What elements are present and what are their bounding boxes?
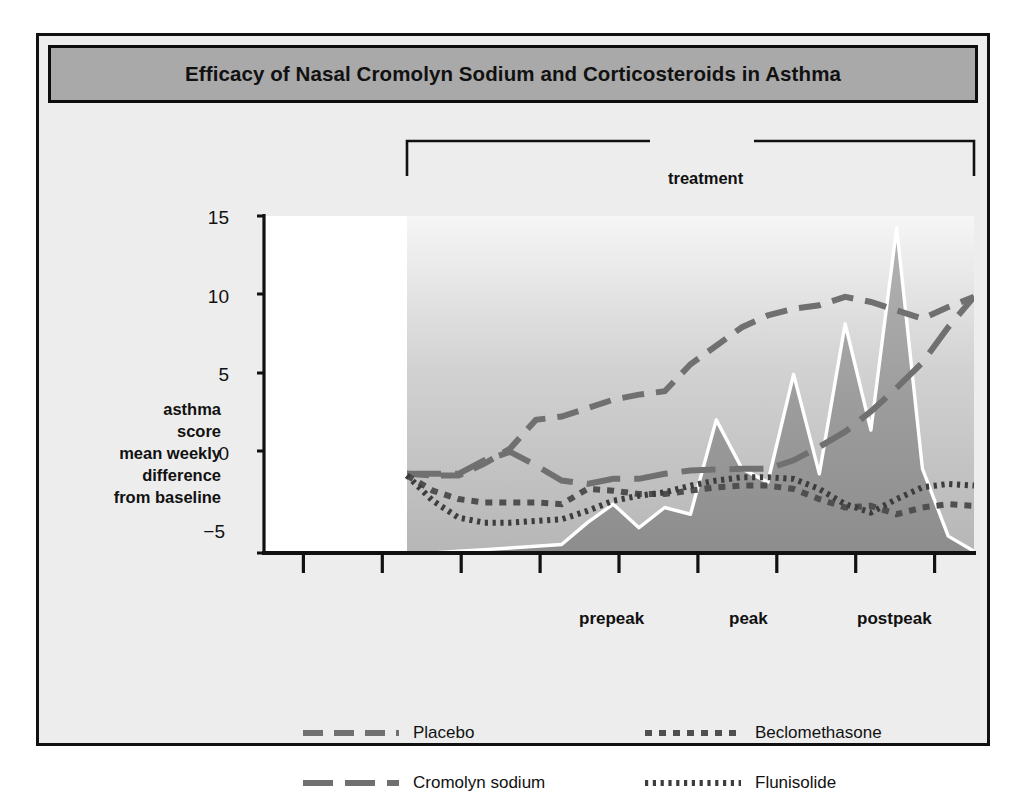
- legend-item-cromolyn-sodium[interactable]: Cromolyn sodium: [301, 773, 545, 793]
- phase-label-peak: peak: [729, 609, 768, 629]
- legend-label-placebo: Placebo: [413, 723, 474, 743]
- treatment-bracket-label: treatment: [659, 169, 752, 188]
- y-tick-label-10: 10: [189, 286, 229, 308]
- chart-legend: Placebo Cromolyn sodium Beclomethasone: [39, 715, 987, 793]
- phase-label-prepeak: prepeak: [579, 609, 644, 629]
- y-tick-label-15: 15: [189, 207, 229, 229]
- y-axis-title-line-1: asthma: [61, 398, 221, 420]
- page-title: Efficacy of Nasal Cromolyn Sodium and Co…: [185, 62, 841, 86]
- figure-root: Efficacy of Nasal Cromolyn Sodium and Co…: [0, 0, 1032, 793]
- x-axis: [262, 553, 976, 573]
- chart-title-bar: Efficacy of Nasal Cromolyn Sodium and Co…: [48, 45, 978, 103]
- plot-area: asthma score mean weekly difference from…: [39, 103, 987, 746]
- y-tick-label-0: 0: [189, 443, 229, 465]
- y-tick-label-5: 5: [189, 364, 229, 386]
- legend-item-placebo[interactable]: Placebo: [301, 723, 474, 743]
- y-axis: [257, 214, 264, 555]
- legend-item-flunisolide[interactable]: Flunisolide: [643, 773, 836, 793]
- phase-label-postpeak: postpeak: [857, 609, 932, 629]
- legend-swatch-placebo: [301, 726, 401, 740]
- legend-item-beclomethasone[interactable]: Beclomethasone: [643, 723, 882, 743]
- legend-label-flunisolide: Flunisolide: [755, 773, 836, 793]
- legend-label-beclomethasone: Beclomethasone: [755, 723, 882, 743]
- y-axis-title-line-5: from baseline: [61, 486, 221, 508]
- y-tick-label-neg5: −5: [185, 521, 225, 543]
- legend-swatch-beclomethasone: [643, 726, 743, 740]
- legend-swatch-flunisolide: [643, 776, 743, 790]
- y-axis-title-line-2: score: [61, 420, 221, 442]
- legend-swatch-cromolyn-sodium: [301, 776, 401, 790]
- y-axis-title-line-4: difference: [61, 464, 221, 486]
- legend-label-cromolyn-sodium: Cromolyn sodium: [413, 773, 545, 793]
- figure-frame: Efficacy of Nasal Cromolyn Sodium and Co…: [36, 33, 990, 746]
- x-axis-ticks: [303, 555, 934, 573]
